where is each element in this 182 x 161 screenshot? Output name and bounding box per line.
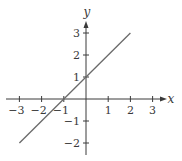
y-axis-label: y: [83, 5, 91, 19]
y-tick-label: 1: [73, 71, 80, 84]
x-tick-label: −3: [8, 104, 24, 117]
y-axis-arrow-icon: [84, 21, 89, 28]
x-tick-label: 1: [105, 104, 112, 117]
x-tick-label: −2: [30, 104, 46, 117]
y-tick-label: −1: [64, 115, 80, 128]
x-tick-label: 2: [127, 104, 134, 117]
labels: xy: [83, 5, 175, 106]
y-tick-label: 2: [73, 49, 80, 62]
x-axis-label: x: [168, 92, 175, 106]
line-chart: −3−2−1123−2−1123 xy: [0, 0, 182, 161]
x-tick-label: 3: [149, 104, 156, 117]
x-axis-arrow-icon: [160, 97, 167, 102]
y-tick-label: −2: [64, 137, 80, 150]
y-tick-label: 3: [73, 27, 80, 40]
axes: [6, 21, 167, 155]
